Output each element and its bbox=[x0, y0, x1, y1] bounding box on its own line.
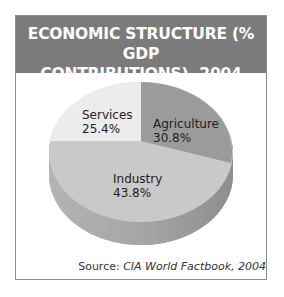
pie-chart bbox=[0, 0, 284, 297]
label-agriculture: Agriculture 30.8% bbox=[153, 117, 219, 145]
label-industry-value: 43.8% bbox=[113, 186, 162, 200]
source-title: CIA World Factbook, 2004 bbox=[123, 260, 266, 273]
label-services-value: 25.4% bbox=[82, 122, 133, 136]
label-agriculture-value: 30.8% bbox=[153, 131, 219, 145]
source-note: Source: CIA World Factbook, 2004 bbox=[78, 260, 266, 273]
label-services: Services 25.4% bbox=[82, 108, 133, 136]
label-agriculture-name: Agriculture bbox=[153, 117, 219, 131]
label-industry-name: Industry bbox=[113, 172, 162, 186]
label-industry: Industry 43.8% bbox=[113, 172, 162, 200]
source-prefix: Source: bbox=[78, 260, 123, 273]
label-services-name: Services bbox=[82, 108, 133, 122]
